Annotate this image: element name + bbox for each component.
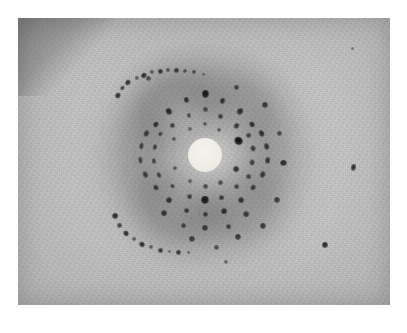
halo-arc-upper-right — [211, 78, 275, 142]
diffraction-figure — [0, 0, 407, 333]
diffraction-spot — [141, 170, 148, 178]
outer-arc-spot-lower-left — [157, 247, 163, 253]
diffraction-spot — [138, 142, 143, 150]
outer-arc-spot-upper-left — [183, 69, 187, 73]
diffraction-spot — [263, 142, 269, 150]
corner-bevel-shadow — [18, 18, 114, 96]
diffraction-spot — [258, 170, 265, 178]
diffraction-spot — [156, 171, 162, 178]
outer-arc-spot-upper-left — [149, 69, 154, 74]
diffraction-spot — [232, 182, 239, 189]
diffraction-spot — [203, 212, 208, 217]
diffraction-spot — [202, 225, 208, 231]
outer-arc-spot-upper-left — [173, 67, 179, 73]
outer-arc-spot-upper-left — [134, 75, 140, 81]
outer-arc-spot-lower-left — [111, 212, 119, 220]
diffraction-spot — [322, 242, 328, 248]
diffraction-spot — [189, 236, 195, 242]
diffraction-spot — [280, 160, 287, 166]
outer-arc-spot-upper-left — [140, 71, 148, 79]
diffraction-spot — [242, 210, 250, 218]
diffraction-spot — [235, 234, 241, 240]
diffraction-spot — [171, 136, 177, 142]
diffraction-spot — [160, 209, 168, 217]
photographic-print — [18, 18, 390, 305]
diffraction-spot — [186, 193, 192, 199]
diffraction-spot — [180, 222, 185, 227]
diffraction-spot — [262, 102, 268, 108]
diffraction-spot — [201, 196, 209, 204]
outer-arc-spot-lower-left — [122, 229, 130, 237]
diffraction-spot — [249, 159, 255, 166]
diffraction-spot — [234, 85, 239, 90]
diffraction-spot — [257, 129, 265, 137]
diffraction-spot — [203, 107, 208, 112]
diffraction-spot — [232, 135, 244, 147]
diffraction-spot — [186, 112, 191, 118]
diffraction-spot — [219, 97, 226, 104]
diffraction-spot — [152, 120, 160, 128]
diffraction-spot — [236, 106, 245, 115]
diffraction-spot — [183, 207, 189, 213]
diffraction-spot — [138, 156, 143, 163]
diffraction-spot — [264, 156, 270, 163]
halo-arc-lower-right — [209, 171, 277, 239]
diffraction-spot — [168, 121, 175, 128]
diffraction-spot — [232, 122, 240, 130]
diffraction-spot — [217, 179, 223, 185]
outer-arc-spot-lower-left — [131, 236, 137, 242]
diffraction-spot — [169, 183, 175, 189]
diffraction-spot — [250, 144, 256, 151]
outer-arc-spot-lower-left — [175, 249, 181, 255]
outer-arc-spot-upper-left — [119, 85, 125, 91]
diffraction-spot — [142, 129, 150, 137]
diffraction-spot — [183, 96, 190, 103]
diffraction-spot — [146, 76, 151, 81]
outer-arc-spot-lower-left — [148, 244, 153, 249]
diffraction-spot — [224, 260, 228, 264]
diffraction-spot — [245, 173, 252, 180]
diffraction-spot — [245, 132, 252, 139]
diffraction-spot — [274, 197, 280, 203]
outer-arc-spot-upper-left — [114, 91, 121, 99]
beam-stop-shadow — [188, 138, 222, 172]
outer-arc-spot-lower-left — [138, 240, 146, 248]
outer-arc-spot-upper-left — [166, 68, 171, 73]
diffraction-spot — [214, 245, 219, 250]
diffraction-spot — [203, 122, 207, 126]
outer-arc-spot-upper-left — [192, 70, 196, 74]
outer-arc-spot-upper-left — [201, 72, 204, 75]
diffraction-spot — [217, 113, 223, 119]
diffraction-spot — [249, 183, 257, 191]
diffraction-spot — [221, 208, 228, 215]
diffraction-spot — [351, 47, 354, 50]
diffraction-spot — [165, 106, 174, 115]
outer-arc-spot-lower-left — [116, 222, 123, 229]
diffraction-spot — [157, 131, 163, 137]
outer-arc-spot-upper-left — [157, 68, 163, 74]
diffraction-spot — [216, 127, 221, 132]
diffraction-spot — [232, 165, 240, 173]
diffraction-spot — [187, 178, 192, 183]
diffraction-spot — [187, 126, 192, 131]
diffraction-spot — [165, 196, 173, 204]
diffraction-spot — [260, 223, 266, 229]
diffraction-spot — [152, 144, 157, 151]
diffraction-spot — [218, 194, 224, 200]
diffraction-spot — [202, 90, 209, 98]
diffraction-spot — [172, 165, 178, 171]
diffraction-spot — [152, 183, 160, 191]
diffraction-spot — [248, 120, 256, 128]
diffraction-spot — [277, 131, 282, 136]
outer-arc-spot-lower-left — [167, 249, 171, 253]
diffraction-spot — [237, 196, 245, 204]
diffraction-spot — [350, 163, 356, 171]
outer-arc-spot-lower-left — [186, 250, 189, 253]
diffraction-spot — [152, 158, 157, 164]
halo-arc-lower-left — [140, 170, 212, 242]
diffraction-spot — [225, 223, 230, 228]
outer-arc-spot-upper-left — [124, 78, 132, 86]
diffraction-spot — [203, 184, 208, 189]
